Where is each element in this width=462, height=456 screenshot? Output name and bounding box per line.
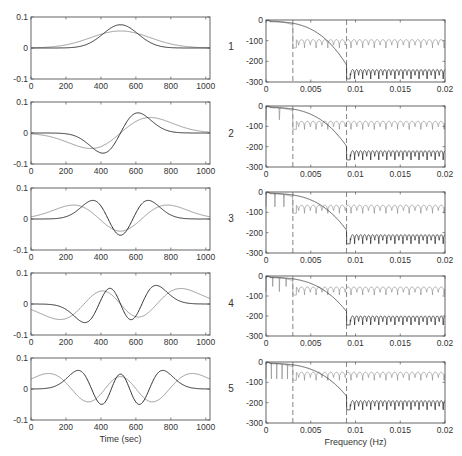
x-tick-label: 0.015: [390, 425, 412, 435]
panel-time-3: [31, 188, 210, 250]
y-tick-label: 0: [258, 15, 263, 25]
curve-dark: [31, 200, 210, 235]
x-tick-label: 0: [264, 425, 269, 435]
x-tick-label: 0.02: [437, 255, 454, 265]
y-tick-label: -200: [246, 142, 263, 152]
x-tick-label: 200: [59, 337, 73, 347]
y-tick-label: -0.1: [13, 415, 28, 425]
x-tick-label: 400: [94, 81, 108, 91]
panel-freq-3: [266, 192, 445, 253]
row-number-label: 2: [228, 128, 234, 139]
x-tick-label: 0.01: [347, 425, 364, 435]
figure: 02004006008001000-0.100.1020040060080010…: [0, 0, 462, 456]
x-tick-label: 1000: [196, 166, 215, 176]
x-tick-label: 0.01: [347, 255, 364, 265]
curve-dark: [31, 113, 210, 153]
y-tick-label: -200: [246, 398, 263, 408]
x-tick-label: 800: [164, 166, 178, 176]
panel-freq-1: [266, 20, 445, 82]
y-tick-label: -300: [246, 77, 263, 87]
y-tick-label: -100: [246, 36, 263, 46]
y-tick-label: -0.1: [13, 159, 28, 169]
x-tick-label: 0: [264, 255, 269, 265]
x-tick-label: 0.02: [437, 425, 454, 435]
x-tick-label: 0.005: [300, 255, 322, 265]
curve-dark: [31, 370, 210, 404]
y-tick-label: -200: [246, 228, 263, 238]
curve-light: [31, 374, 210, 402]
y-tick-label: -100: [246, 291, 263, 301]
y-tick-label: -0.1: [13, 245, 28, 255]
x-axis-label: Frequency (Hz): [324, 437, 386, 447]
y-tick-label: 0.1: [16, 353, 28, 363]
x-tick-label: 0: [264, 169, 269, 179]
y-tick-label: 0: [258, 357, 263, 367]
panel-time-1: [31, 17, 210, 79]
y-tick-label: 0: [23, 299, 28, 309]
x-tick-label: 0.005: [300, 425, 322, 435]
x-tick-label: 600: [129, 252, 143, 262]
panel-time-2: [31, 102, 210, 164]
x-tick-label: 0.01: [347, 169, 364, 179]
x-tick-label: 400: [94, 422, 108, 432]
curve-dark: [31, 25, 210, 48]
y-tick-label: 0.1: [16, 268, 28, 278]
y-tick-label: 0: [258, 101, 263, 111]
row-number-label: 1: [228, 41, 234, 52]
x-tick-label: 400: [94, 252, 108, 262]
x-tick-label: 0.005: [300, 169, 322, 179]
x-axis-label: Time (sec): [99, 434, 141, 444]
y-tick-label: 0: [23, 128, 28, 138]
y-tick-label: 0: [23, 384, 28, 394]
x-tick-label: 0.005: [300, 84, 322, 94]
x-tick-label: 1000: [196, 252, 215, 262]
y-tick-label: -300: [246, 248, 263, 258]
curve-dark: [31, 285, 210, 322]
x-tick-label: 1000: [196, 81, 215, 91]
y-tick-label: -200: [246, 311, 263, 321]
x-tick-label: 0: [29, 337, 34, 347]
y-tick-label: -100: [246, 207, 263, 217]
x-tick-label: 400: [94, 166, 108, 176]
x-tick-label: 0: [29, 422, 34, 432]
x-tick-label: 0.01: [347, 84, 364, 94]
x-tick-label: 800: [164, 422, 178, 432]
x-tick-label: 0.005: [300, 338, 322, 348]
axes-box: [31, 358, 210, 420]
x-tick-label: 600: [129, 422, 143, 432]
row-number-label: 4: [228, 298, 234, 309]
y-tick-label: 0: [258, 271, 263, 281]
y-tick-label: -100: [246, 377, 263, 387]
panel-freq-2: [266, 106, 445, 167]
x-tick-label: 200: [59, 252, 73, 262]
y-tick-label: -0.1: [13, 74, 28, 84]
x-tick-label: 800: [164, 337, 178, 347]
x-tick-label: 0: [29, 81, 34, 91]
x-tick-label: 0: [29, 166, 34, 176]
x-tick-label: 0: [264, 338, 269, 348]
x-tick-label: 200: [59, 81, 73, 91]
panel-time-4: [31, 273, 210, 335]
y-tick-label: 0.1: [16, 97, 28, 107]
x-tick-label: 800: [164, 81, 178, 91]
y-tick-label: 0: [258, 187, 263, 197]
x-tick-label: 600: [129, 166, 143, 176]
x-tick-label: 1000: [196, 337, 215, 347]
y-tick-label: 0.1: [16, 12, 28, 22]
y-tick-label: -300: [246, 162, 263, 172]
x-tick-label: 0.015: [390, 338, 412, 348]
x-tick-label: 0.02: [437, 169, 454, 179]
panel-freq-4: [266, 276, 445, 336]
x-tick-label: 0: [264, 84, 269, 94]
x-tick-label: 600: [129, 81, 143, 91]
y-tick-label: -300: [246, 331, 263, 341]
y-tick-label: -100: [246, 121, 263, 131]
y-tick-label: -200: [246, 56, 263, 66]
panel-time-5: [31, 358, 210, 420]
x-tick-label: 0.015: [390, 255, 412, 265]
x-tick-label: 600: [129, 337, 143, 347]
x-tick-label: 0.02: [437, 84, 454, 94]
y-tick-label: 0.1: [16, 183, 28, 193]
x-tick-label: 0.02: [437, 338, 454, 348]
row-number-label: 5: [228, 383, 234, 394]
